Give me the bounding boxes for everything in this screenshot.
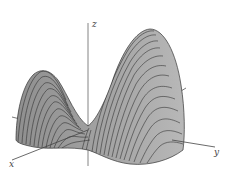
x-axis-label: x	[9, 160, 14, 169]
surface-plot-figure: z x y	[0, 0, 230, 177]
surface-plot-canvas	[0, 0, 230, 177]
z-axis-label: z	[92, 20, 97, 29]
surface	[16, 29, 184, 164]
y-axis-label: y	[214, 148, 219, 157]
